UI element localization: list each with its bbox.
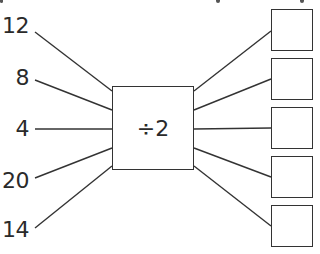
line-output-2 [194,79,271,110]
line-output-4 [194,148,271,177]
operation-label: ÷2 [137,116,169,141]
line-input-4 [35,148,112,178]
line-input-1 [35,32,112,91]
function-machine-box: ÷2 [112,86,194,170]
line-input-2 [35,80,112,110]
input-number-5: 14 [0,219,29,241]
line-output-3 [194,128,271,129]
line-output-5 [194,166,271,226]
answer-box-5[interactable] [271,205,313,247]
line-input-5 [35,166,112,228]
answer-box-1[interactable] [271,9,313,51]
answer-box-2[interactable] [271,58,313,100]
input-number-1: 12 [0,15,29,37]
answer-box-3[interactable] [271,107,313,149]
answer-box-4[interactable] [271,156,313,198]
input-number-4: 20 [0,170,29,192]
input-number-3: 4 [0,118,29,140]
input-number-2: 8 [0,67,29,89]
cropped-text-fragment [0,0,3,3]
line-output-1 [194,31,271,91]
